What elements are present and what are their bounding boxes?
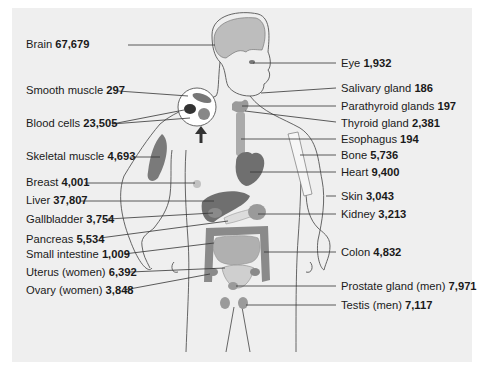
label-gallbladder: Gallbladder 3,754 [26,213,114,226]
label-parathyroid-glands: Parathyroid glands 197 [341,100,456,113]
uterus-organ [222,265,254,288]
label-colon: Colon 4,832 [341,246,401,259]
label-liver: Liver 37,807 [26,194,88,207]
ovary-organ [208,268,218,276]
label-testis: Testis (men) 7,117 [341,299,432,312]
label-skeletal-muscle: Skeletal muscle 4,693 [26,150,135,163]
label-brain: Brain 67,679 [26,38,89,51]
label-skin: Skin 3,043 [341,190,394,203]
bone-organ [288,132,312,196]
label-bone: Bone 5,736 [341,149,398,162]
label-breast: Breast 4,001 [26,176,89,189]
esophagus-organ [236,112,245,156]
label-small-intestine: Small intestine 1,009 [26,248,130,261]
brain-organ [214,18,265,58]
ovary-organ-right [250,268,260,276]
breast-organ [193,180,201,188]
kidney-organ [248,204,266,220]
testis-organ-right [238,297,248,309]
label-eye: Eye 1,932 [341,57,391,70]
label-prostate-gland: Prostate gland (men) 7,971 [341,280,477,293]
testis-organ [220,297,230,309]
label-blood-cells: Blood cells 23,505 [26,117,117,130]
label-uterus: Uterus (women) 6,392 [26,266,137,279]
blood-cell-dark [184,104,196,114]
label-ovary: Ovary (women) 3,848 [26,284,134,297]
label-kidney: Kidney 3,213 [341,208,406,221]
small-intestine-organ [213,236,260,265]
label-salivary-gland: Salivary gland 186 [341,82,433,95]
eye-organ [249,60,255,64]
label-smooth-muscle: Smooth muscle 297 [26,84,125,97]
blood-cell-light [198,108,210,120]
heart-organ [236,152,265,186]
label-esophagus: Esophagus 194 [341,133,419,146]
label-pancreas: Pancreas 5,534 [26,233,104,246]
label-thyroid-gland: Thyroid gland 2,381 [341,117,440,130]
arrow-icon [195,126,207,134]
label-heart: Heart 9,400 [341,166,399,179]
skeletal-muscle-organ [148,134,167,181]
